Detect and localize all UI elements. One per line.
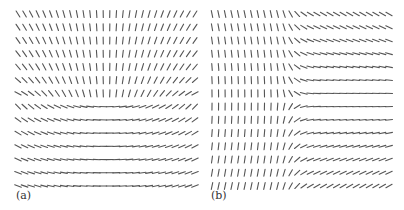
field-stroke — [264, 24, 265, 31]
field-stroke — [231, 183, 232, 190]
field-stroke — [353, 171, 359, 174]
field-stroke — [289, 51, 293, 57]
field-stroke — [211, 24, 212, 31]
field-stroke — [307, 53, 314, 55]
field-stroke — [301, 132, 308, 135]
field-stroke — [258, 130, 259, 137]
field-stroke — [294, 92, 300, 96]
field-stroke — [244, 50, 245, 57]
field-stroke — [333, 12, 339, 15]
field-stroke — [251, 37, 252, 44]
field-stroke — [314, 158, 321, 160]
field-stroke — [212, 63, 213, 70]
field-stroke — [313, 66, 320, 67]
field-stroke — [386, 39, 393, 41]
field-stroke — [327, 80, 334, 81]
field-stroke — [211, 169, 212, 176]
field-stroke — [283, 130, 285, 137]
field-stroke — [359, 53, 366, 55]
field-stroke — [251, 156, 252, 163]
field-stroke — [307, 145, 314, 147]
field-stroke — [289, 24, 292, 30]
field-stroke — [301, 145, 307, 148]
field-stroke — [313, 132, 320, 133]
field-stroke — [212, 50, 213, 57]
field-stroke — [225, 143, 226, 150]
field-stroke — [251, 11, 252, 18]
field-stroke — [366, 158, 373, 160]
field-stroke — [231, 156, 232, 163]
panel-label-b: (b) — [211, 190, 227, 202]
field-stroke — [333, 119, 340, 120]
field-stroke — [218, 11, 219, 18]
field-stroke — [353, 80, 360, 81]
field-stroke — [314, 53, 321, 55]
field-stroke — [277, 130, 278, 137]
field-stroke — [212, 143, 213, 150]
field-stroke — [271, 143, 272, 150]
field-stroke — [257, 24, 258, 31]
field-stroke — [386, 171, 392, 174]
field-stroke — [244, 24, 245, 31]
field-stroke — [353, 39, 360, 41]
field-stroke — [244, 143, 245, 150]
field-stroke — [360, 171, 366, 174]
field-stroke — [289, 77, 293, 83]
field-stroke — [346, 66, 353, 67]
field-stroke — [289, 64, 293, 70]
field-stroke — [379, 80, 386, 81]
field-stroke — [333, 80, 340, 81]
field-stroke — [283, 77, 285, 84]
field-stroke — [245, 63, 246, 70]
field-stroke — [277, 90, 278, 97]
field-stroke — [225, 169, 226, 176]
field-stroke — [307, 106, 314, 107]
field-stroke — [218, 50, 219, 57]
field-stroke — [327, 66, 334, 67]
field-stroke — [301, 25, 307, 29]
field-stroke — [301, 171, 307, 175]
field-stroke — [231, 37, 232, 44]
field-stroke — [238, 130, 239, 137]
field-stroke — [340, 80, 347, 81]
field-stroke — [320, 26, 326, 29]
field-stroke — [347, 184, 353, 187]
field-stroke — [320, 158, 327, 160]
field-stroke — [372, 80, 379, 81]
field-stroke — [353, 66, 360, 67]
field-stroke — [333, 66, 340, 67]
field-stroke — [264, 63, 265, 70]
field-stroke — [258, 63, 259, 70]
field-stroke — [346, 26, 352, 29]
field-stroke — [360, 184, 366, 187]
field-stroke — [327, 171, 333, 174]
field-stroke — [264, 50, 265, 57]
field-stroke — [307, 12, 313, 16]
field-stroke — [386, 184, 392, 187]
field-stroke — [333, 26, 339, 29]
direction-field-b — [0, 0, 404, 210]
field-stroke — [346, 39, 353, 41]
field-stroke — [359, 132, 366, 133]
field-stroke — [372, 132, 379, 133]
field-stroke — [327, 39, 334, 41]
field-stroke — [314, 184, 320, 187]
field-stroke — [379, 158, 386, 160]
field-stroke — [307, 184, 313, 188]
field-stroke — [340, 119, 347, 120]
field-stroke — [295, 144, 300, 148]
field-stroke — [386, 145, 393, 147]
field-stroke — [353, 119, 360, 120]
field-stroke — [327, 53, 334, 55]
field-stroke — [277, 183, 279, 190]
field-stroke — [340, 171, 346, 174]
field-stroke — [373, 39, 380, 41]
field-stroke — [211, 11, 212, 18]
field-stroke — [327, 145, 334, 147]
field-stroke — [277, 116, 278, 123]
field-stroke — [314, 12, 320, 15]
field-stroke — [277, 156, 278, 163]
field-stroke — [359, 39, 366, 41]
field-stroke — [373, 145, 380, 147]
field-stroke — [225, 24, 226, 31]
